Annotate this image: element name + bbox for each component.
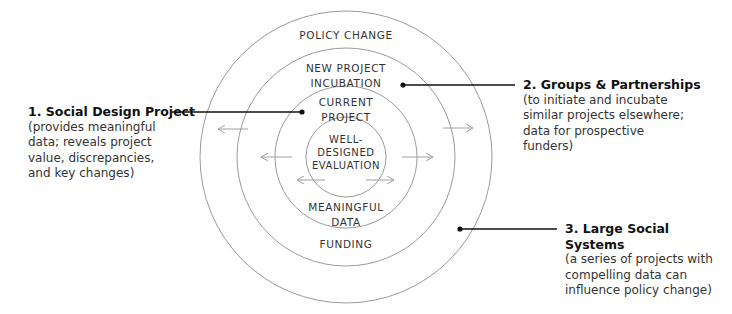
callout-description: (a series of projects with compelling da… xyxy=(565,252,732,299)
leader-dot-3 xyxy=(457,226,462,231)
callout-title: 1. Social Design Project xyxy=(28,104,195,120)
label-new-project-incubation: NEW PROJECT INCUBATION xyxy=(306,61,386,91)
callout-title: 2. Groups & Partnerships xyxy=(523,77,701,93)
callout-title: 3. Large Social Systems xyxy=(565,221,732,252)
label-well-designed-evaluation: WELL- DESIGNED EVALUATION xyxy=(312,133,380,172)
callout-groups-partnerships: 2. Groups & Partnerships (to initiate an… xyxy=(523,77,701,155)
label-funding: FUNDING xyxy=(320,237,373,252)
leader-dot-2 xyxy=(400,82,405,87)
label-meaningful-data: MEANINGFUL DATA xyxy=(308,200,383,230)
label-policy-change: POLICY CHANGE xyxy=(299,28,392,43)
callout-social-design-project: 1. Social Design Project (provides meani… xyxy=(28,104,195,182)
callout-large-social-systems: 3. Large Social Systems (a series of pro… xyxy=(565,221,732,299)
callout-description: (provides meaningful data; reveals proje… xyxy=(28,120,195,182)
callout-description: (to initiate and incubate similar projec… xyxy=(523,93,701,155)
leader-dot-1 xyxy=(299,109,304,114)
label-current-project: CURRENT PROJECT xyxy=(319,95,374,125)
